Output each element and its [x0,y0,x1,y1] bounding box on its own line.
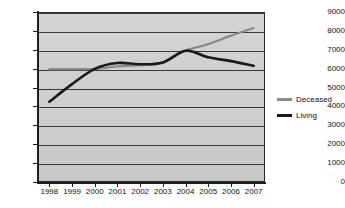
y-tick-mark [33,106,37,107]
gridline [39,107,264,108]
gridline [39,126,264,127]
x-tick-mark [231,183,232,187]
y-tick-mark [33,88,37,89]
x-tick-mark [163,183,164,187]
gridline [39,13,264,14]
legend-label-deceased: Deceased [296,95,332,104]
x-tick-mark [49,183,50,187]
gridline [39,164,264,165]
x-tick-mark [208,183,209,187]
x-tick-mark [186,183,187,187]
y-tick-label: 0 [311,178,345,186]
y-tick-mark [33,31,37,32]
y-tick-label: 9000 [311,8,345,16]
y-tick-mark [33,144,37,145]
y-tick-mark [33,125,37,126]
y-tick-label: 1000 [311,159,345,167]
x-tick-label: 2007 [241,188,267,196]
x-tick-mark [254,183,255,187]
gridline [39,145,264,146]
line-chart: 0100020003000400050006000700080009000 19… [0,0,345,208]
y-tick-label: 8000 [311,27,345,35]
y-tick-mark [33,182,37,183]
y-tick-label: 6000 [311,65,345,73]
legend-item-living: Living [277,109,343,122]
gridline [39,89,264,90]
gridline [39,70,264,71]
gridline [39,51,264,52]
legend-item-deceased: Deceased [277,93,343,106]
gridline [39,32,264,33]
plot-area [38,12,265,182]
y-tick-mark [33,50,37,51]
chart-legend: Deceased Living [277,93,343,125]
x-tick-mark [72,183,73,187]
legend-label-living: Living [296,111,317,120]
y-tick-mark [33,163,37,164]
y-tick-label: 2000 [311,140,345,148]
x-tick-mark [95,183,96,187]
y-axis-line [37,11,39,183]
legend-swatch-living [277,114,292,117]
y-tick-label: 7000 [311,46,345,54]
x-tick-mark [117,183,118,187]
y-tick-mark [33,69,37,70]
y-tick-mark [33,12,37,13]
y-tick-label: 5000 [311,84,345,92]
x-tick-mark [140,183,141,187]
legend-swatch-deceased [277,98,292,101]
